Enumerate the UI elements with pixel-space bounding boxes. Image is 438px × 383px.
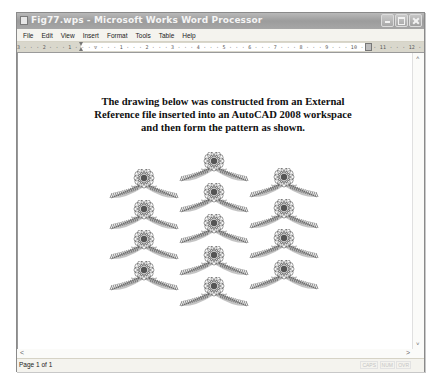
app-window: Fig77.wps - Microsoft Works Word Process… <box>16 12 425 372</box>
scroll-down-arrow-icon[interactable]: ˅ <box>416 341 420 347</box>
menu-file[interactable]: File <box>23 32 33 39</box>
ruler[interactable]: 3 · · · 2 · · · 1 · · · ▽ · · · 1 · · · … <box>17 42 424 53</box>
menu-table[interactable]: Table <box>159 32 175 39</box>
document-page[interactable]: The drawing below was constructed from a… <box>17 53 412 349</box>
menu-tools[interactable]: Tools <box>136 32 151 39</box>
text-line-2: Reference file inserted into an AutoCAD … <box>58 108 388 121</box>
status-bar: Page 1 of 1 CAPS NUM OVR <box>17 358 424 372</box>
flower-feather-motif <box>179 277 249 321</box>
minimize-button[interactable] <box>381 14 394 27</box>
menu-bar: File Edit View Insert Format Tools Table… <box>17 29 424 42</box>
page-indicator: Page 1 of 1 <box>19 361 52 368</box>
flower-feather-motif <box>109 261 179 305</box>
ovr-indicator: OVR <box>396 361 411 369</box>
title-bar[interactable]: Fig77.wps - Microsoft Works Word Process… <box>17 13 424 29</box>
scroll-left-arrow-icon[interactable]: < <box>20 349 24 356</box>
menu-help[interactable]: Help <box>182 32 195 39</box>
menu-edit[interactable]: Edit <box>41 32 52 39</box>
menu-format[interactable]: Format <box>107 32 128 39</box>
scroll-right-arrow-icon[interactable]: > <box>406 349 410 356</box>
flower-feather-motif <box>249 260 319 304</box>
caps-indicator: CAPS <box>360 361 378 369</box>
num-indicator: NUM <box>380 361 395 369</box>
window-title: Fig77.wps - Microsoft Works Word Process… <box>31 15 262 25</box>
left-indent-marker[interactable] <box>79 42 84 51</box>
menu-insert[interactable]: Insert <box>83 32 99 39</box>
document-body-text: The drawing below was constructed from a… <box>58 95 388 134</box>
document-icon <box>20 16 28 25</box>
text-line-3: and then form the pattern as shown. <box>58 121 388 134</box>
text-line-1: The drawing below was constructed from a… <box>58 95 388 108</box>
close-button[interactable] <box>409 14 422 27</box>
horizontal-scrollbar[interactable]: < > <box>17 349 424 358</box>
window-controls <box>381 14 422 27</box>
menu-view[interactable]: View <box>61 32 75 39</box>
right-indent-marker[interactable] <box>365 43 372 51</box>
vertical-scrollbar[interactable]: ˄ ˅ <box>412 53 424 349</box>
maximize-button[interactable] <box>395 14 408 27</box>
scroll-up-arrow-icon[interactable]: ˄ <box>416 55 420 61</box>
